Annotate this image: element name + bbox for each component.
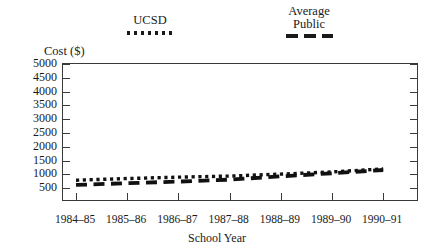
chart-figure: UCSD Average Public Cost ($) 50010001500… [0, 0, 434, 250]
x-axis-title: School Year [0, 232, 434, 244]
x-tick-label-layer: 1984–851985–861986–871987–881988–891989–… [0, 0, 434, 250]
x-tick-label: 1990–91 [351, 213, 413, 225]
